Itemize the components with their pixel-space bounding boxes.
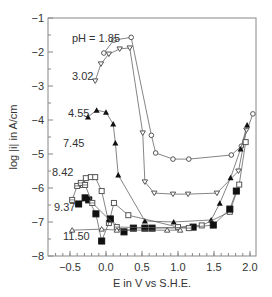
x-tick-label: 1.0: [170, 261, 185, 273]
series-labels: pH = 1.853.024.557.458.429.3711.50: [52, 32, 120, 242]
series-label: 8.42: [52, 166, 73, 178]
series-label: 4.55: [68, 107, 89, 119]
series-3.02: [93, 46, 250, 197]
y-tick-label: −7: [31, 216, 44, 228]
series-label: 3.02: [72, 70, 93, 82]
x-axis-label: E in V vs S.H.E.: [113, 277, 191, 289]
series-label: pH = 1.85: [72, 32, 120, 44]
y-tick-label: −3: [31, 80, 44, 92]
x-tick-label: 1.5: [206, 261, 221, 273]
y-tick-label: −2: [31, 46, 44, 58]
x-axis: −0.50.00.51.01.52.0: [56, 251, 258, 273]
x-tick-label: 0.5: [134, 261, 149, 273]
y-tick-label: −6: [31, 182, 44, 194]
y-tick-label: −4: [31, 114, 44, 126]
x-tick-label: 2.0: [242, 261, 257, 273]
x-tick-label: 0.0: [98, 261, 113, 273]
series-label: 9.37: [54, 201, 75, 213]
series-label: 11.50: [63, 230, 90, 242]
y-tick-label: −8: [31, 250, 44, 262]
series-8.42: [76, 188, 240, 244]
y-tick-label: −1: [31, 12, 44, 24]
x-tick-label: −0.5: [59, 261, 81, 273]
series-1.85: [102, 35, 256, 161]
series-4.55: [85, 107, 250, 224]
series-label: 7.45: [63, 137, 84, 149]
polarization-chart: −1−2−3−4−5−6−7−8 −0.50.00.51.01.52.0 pH …: [0, 0, 272, 297]
y-axis-label: log |i| in A/cm: [7, 104, 19, 169]
data-series: [69, 35, 255, 244]
y-tick-label: −5: [31, 148, 44, 160]
y-axis: −1−2−3−4−5−6−7−8: [31, 12, 53, 262]
